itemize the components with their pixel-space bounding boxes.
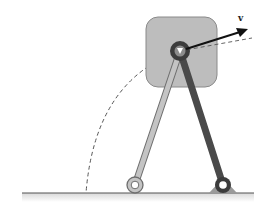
right-joint-hole [219,181,227,189]
left-joint-hole [131,181,139,189]
velocity-label: v [237,13,244,23]
ground-shading [22,193,254,202]
mechanism-diagram: v [0,0,272,218]
diagram-canvas: v [0,0,272,218]
